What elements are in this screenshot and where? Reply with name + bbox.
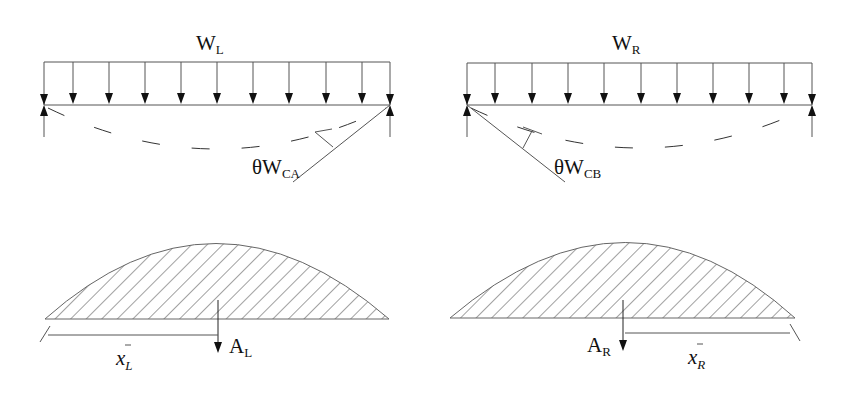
left-deflected-shape (48, 108, 386, 149)
right-load-label: WR (612, 31, 641, 57)
left-support-c (386, 94, 394, 137)
right-rotation-label: θWCB (554, 155, 602, 181)
right-rotation-dimension (523, 131, 532, 148)
right-beam-group (463, 63, 816, 182)
right-support-b (808, 94, 816, 137)
left-centroid-label: xL (115, 346, 133, 373)
left-moment-area (40, 244, 389, 354)
left-rotation-label: θWCA (252, 155, 301, 181)
left-rotation-line (293, 105, 390, 182)
left-hatched-area (45, 244, 389, 320)
right-area-arrow-icon (619, 340, 627, 351)
right-centroid-label: xR (687, 345, 705, 372)
beam-diagram: WL θWCA WR θWCB (0, 0, 850, 398)
right-moment-area (450, 243, 800, 352)
left-area-arrow-icon (214, 342, 222, 353)
right-load-arrows (491, 63, 788, 104)
right-support-c (463, 94, 471, 137)
left-rotation-dimension (315, 132, 333, 147)
left-beam-group (40, 62, 394, 182)
right-deflected-shape (471, 108, 808, 148)
left-load-arrows (69, 62, 366, 104)
left-load-label: WL (196, 31, 224, 57)
left-area-label: AL (229, 334, 252, 360)
left-support-a (40, 94, 48, 137)
right-rotation-line (467, 105, 565, 182)
right-area-label: AR (587, 333, 611, 359)
